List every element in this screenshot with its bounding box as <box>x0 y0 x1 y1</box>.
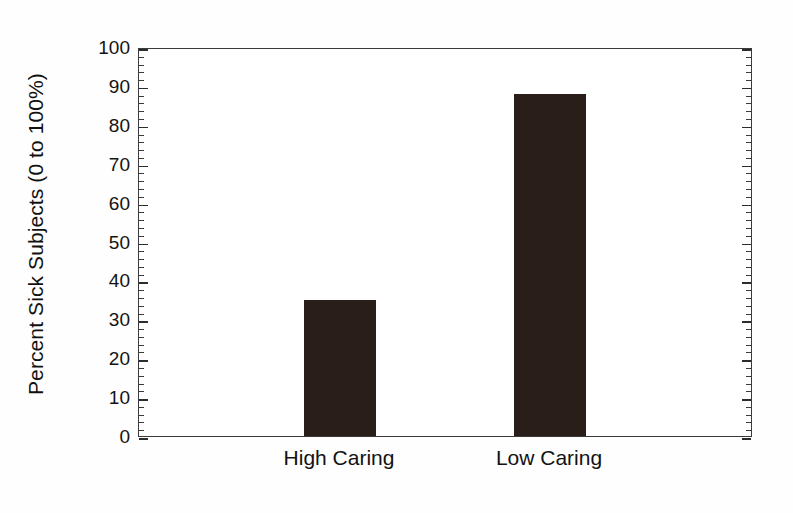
x-axis-tick-labels: High CaringLow Caring <box>138 446 752 486</box>
y-axis-minor-tick <box>139 415 144 416</box>
y-axis-minor-tick <box>139 228 144 229</box>
y-axis-major-tick-right <box>742 244 751 246</box>
y-axis-minor-tick <box>139 384 144 385</box>
y-axis-major-tick <box>139 88 148 90</box>
y-axis-minor-tick <box>139 220 144 221</box>
y-axis-minor-tick <box>139 267 144 268</box>
y-axis-minor-tick <box>139 430 144 431</box>
y-axis-minor-tick <box>139 212 144 213</box>
y-axis-minor-tick-right <box>746 430 751 431</box>
y-axis-minor-tick-right <box>746 158 751 159</box>
y-axis-minor-tick-right <box>746 111 751 112</box>
y-axis-minor-tick-right <box>746 275 751 276</box>
y-axis-minor-tick <box>139 306 144 307</box>
y-tick-label: 20 <box>109 348 130 370</box>
y-axis-minor-tick <box>139 298 144 299</box>
y-axis-major-tick-right <box>742 49 751 51</box>
y-axis-major-tick-right <box>742 399 751 401</box>
y-axis-minor-tick <box>139 158 144 159</box>
y-axis-minor-tick-right <box>746 251 751 252</box>
y-axis-minor-tick-right <box>746 197 751 198</box>
y-axis-minor-tick <box>139 181 144 182</box>
y-tick-label: 30 <box>109 309 130 331</box>
bar-chart-figure: Percent Sick Subjects (0 to 100%) 010203… <box>0 0 793 513</box>
y-axis-major-tick-right <box>742 282 751 284</box>
y-axis-minor-tick <box>139 352 144 353</box>
y-axis-minor-tick <box>139 368 144 369</box>
y-axis-minor-tick-right <box>746 236 751 237</box>
y-axis-minor-tick <box>139 337 144 338</box>
y-axis-minor-tick-right <box>746 142 751 143</box>
y-axis-title: Percent Sick Subjects (0 to 100%) <box>24 9 48 459</box>
y-axis-minor-tick <box>139 142 144 143</box>
y-tick-label: 90 <box>109 76 130 98</box>
y-axis-minor-tick <box>139 72 144 73</box>
y-axis-major-tick <box>139 321 148 323</box>
y-axis-minor-tick-right <box>746 72 751 73</box>
y-axis-minor-tick-right <box>746 352 751 353</box>
x-tick-label: High Caring <box>284 446 395 470</box>
y-axis-minor-tick-right <box>746 80 751 81</box>
y-axis-major-tick-right <box>742 88 751 90</box>
y-tick-label: 60 <box>109 193 130 215</box>
y-axis-major-tick <box>139 166 148 168</box>
y-axis-major-tick <box>139 438 148 440</box>
y-axis-minor-tick-right <box>746 135 751 136</box>
y-axis-minor-tick-right <box>746 384 751 385</box>
y-axis-minor-tick-right <box>746 306 751 307</box>
y-axis-major-tick <box>139 205 148 207</box>
y-axis-minor-tick-right <box>746 314 751 315</box>
y-axis-minor-tick <box>139 96 144 97</box>
y-axis-minor-tick-right <box>746 103 751 104</box>
y-axis-major-tick <box>139 49 148 51</box>
y-axis-major-tick-right <box>742 438 751 440</box>
y-tick-label: 40 <box>109 270 130 292</box>
y-axis-minor-tick <box>139 407 144 408</box>
y-axis-minor-tick <box>139 275 144 276</box>
y-axis-minor-tick <box>139 173 144 174</box>
y-axis-minor-tick <box>139 391 144 392</box>
y-axis-minor-tick <box>139 57 144 58</box>
bar <box>514 94 586 436</box>
y-axis-major-tick <box>139 282 148 284</box>
y-axis-minor-tick-right <box>746 337 751 338</box>
y-axis-minor-tick-right <box>746 415 751 416</box>
y-axis-minor-tick-right <box>746 422 751 423</box>
y-axis-major-tick-right <box>742 321 751 323</box>
y-axis-minor-tick <box>139 135 144 136</box>
y-axis-minor-tick-right <box>746 329 751 330</box>
y-axis-title-container: Percent Sick Subjects (0 to 100%) <box>6 0 66 513</box>
y-axis-minor-tick-right <box>746 57 751 58</box>
y-axis-minor-tick <box>139 197 144 198</box>
y-axis-minor-tick <box>139 376 144 377</box>
y-axis-minor-tick <box>139 236 144 237</box>
y-axis-major-tick <box>139 127 148 129</box>
y-axis-minor-tick-right <box>746 228 751 229</box>
y-axis-major-tick <box>139 360 148 362</box>
y-axis-minor-tick <box>139 422 144 423</box>
y-axis-minor-tick-right <box>746 189 751 190</box>
y-axis-minor-tick-right <box>746 65 751 66</box>
y-axis-major-tick <box>139 244 148 246</box>
plot-area <box>138 48 752 437</box>
y-axis-minor-tick <box>139 290 144 291</box>
y-axis-minor-tick-right <box>746 220 751 221</box>
bar <box>304 300 376 436</box>
y-axis-minor-tick-right <box>746 407 751 408</box>
y-axis-minor-tick <box>139 189 144 190</box>
y-axis-minor-tick <box>139 251 144 252</box>
y-tick-label: 80 <box>109 115 130 137</box>
y-axis-minor-tick <box>139 65 144 66</box>
y-axis-minor-tick-right <box>746 298 751 299</box>
y-axis-major-tick-right <box>742 360 751 362</box>
y-axis-minor-tick <box>139 150 144 151</box>
y-axis-minor-tick-right <box>746 96 751 97</box>
y-axis-major-tick-right <box>742 166 751 168</box>
y-axis-minor-tick-right <box>746 267 751 268</box>
y-tick-label: 70 <box>109 154 130 176</box>
y-axis-major-tick <box>139 399 148 401</box>
y-axis-minor-tick-right <box>746 345 751 346</box>
y-axis-minor-tick <box>139 80 144 81</box>
y-axis-minor-tick-right <box>746 259 751 260</box>
y-axis-minor-tick <box>139 119 144 120</box>
